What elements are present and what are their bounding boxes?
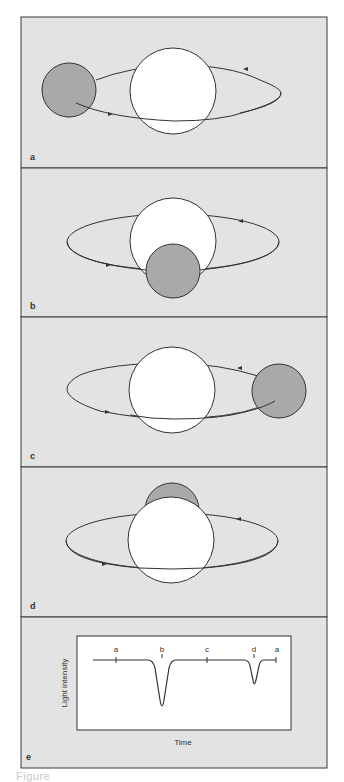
panel-c: c — [21, 317, 327, 467]
tick-label-c: c — [205, 645, 209, 654]
panel-label-e: e — [26, 752, 31, 762]
panel-d: d — [21, 467, 327, 617]
figure-caption: Figure — [16, 770, 50, 782]
panel-label-b: b — [30, 301, 36, 311]
secondary-star — [42, 63, 96, 117]
y-axis-label: Light intensity — [60, 659, 69, 708]
primary-star — [129, 347, 215, 433]
panel-e: a b c d a Light intensity Time e — [21, 617, 327, 768]
panel-b: b — [21, 168, 327, 317]
x-axis-label: Time — [174, 738, 192, 747]
chart-plot-area — [77, 636, 291, 730]
tick-label-d: d — [252, 645, 256, 654]
primary-star — [128, 497, 214, 583]
tick-label-a2: a — [275, 645, 280, 654]
panel-a: a — [21, 17, 327, 168]
secondary-star — [146, 244, 200, 298]
panel-label-c: c — [30, 451, 35, 461]
tick-label-a1: a — [114, 645, 119, 654]
secondary-star — [252, 364, 306, 418]
panel-label-d: d — [30, 601, 36, 611]
tick-label-b: b — [160, 645, 165, 654]
